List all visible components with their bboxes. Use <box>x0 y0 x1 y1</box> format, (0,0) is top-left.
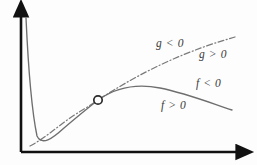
label-f-negative: f < 0 <box>196 78 221 90</box>
label-f-positive: f > 0 <box>161 100 186 112</box>
intersection-point-marker <box>94 96 102 104</box>
label-g-negative: g < 0 <box>156 38 184 50</box>
label-g-positive: g > 0 <box>199 49 227 61</box>
math-figure: g < 0 g > 0 f < 0 f > 0 <box>0 0 257 165</box>
